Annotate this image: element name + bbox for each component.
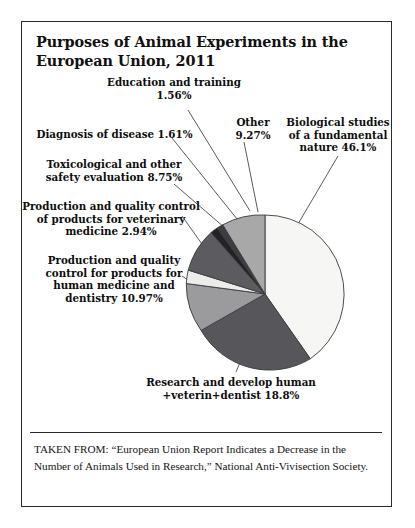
pie-label-human-medicine: Production and quality control for produ… (26, 254, 202, 304)
pie-label-diagnosis: Diagnosis of disease 1.61% (32, 128, 197, 141)
pie-label-research: Research and develop human +veterin+dent… (142, 376, 320, 401)
pie-chart: Education and training 1.56% Other 9.27%… (22, 76, 390, 428)
pie-label-toxicological: Toxicological and other safety evaluatio… (30, 158, 198, 183)
source-attribution: TAKEN FROM: “European Union Report Indic… (34, 441, 376, 474)
pie-label-education: Education and training 1.56% (94, 76, 254, 101)
pie-label-veterinary: Production and quality control of produc… (22, 200, 200, 238)
pie-label-biological: Biological studies of a fundamental natu… (284, 116, 392, 154)
pie-slices (186, 215, 344, 370)
leader-line-other (244, 142, 258, 212)
leader-line-biological (298, 156, 338, 224)
pie-label-other: Other 9.27% (218, 116, 288, 141)
figure-panel: Purposes of Animal Experiments in the Eu… (21, 21, 392, 507)
page-title: Purposes of Animal Experiments in the Eu… (36, 32, 376, 70)
horizontal-divider (30, 432, 382, 433)
